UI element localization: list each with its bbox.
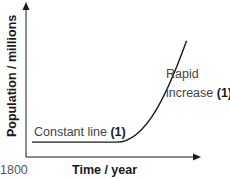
- y-axis-label: Population / millions: [5, 15, 19, 137]
- y-axis-arrowhead-icon: [23, 2, 30, 10]
- x-axis-label: Time / year: [72, 163, 137, 177]
- annotation-constant-line: Constant line (1): [34, 125, 126, 139]
- annotation-rapid-line2: increase (1): [166, 86, 230, 100]
- annotation-rapid-mark: (1): [217, 86, 230, 100]
- x-axis-arrowhead-icon: [193, 154, 201, 161]
- annotation-constant-mark: (1): [110, 125, 125, 139]
- population-chart: Population / millions Time / year 1800 C…: [0, 0, 230, 179]
- annotation-rapid-text-2: increase: [166, 86, 213, 100]
- annotation-rapid-text-1: Rapid: [166, 67, 199, 81]
- annotation-constant-text: Constant line: [34, 125, 107, 139]
- annotation-rapid-line1: Rapid: [166, 67, 199, 81]
- x-tick-label: 1800: [0, 163, 28, 177]
